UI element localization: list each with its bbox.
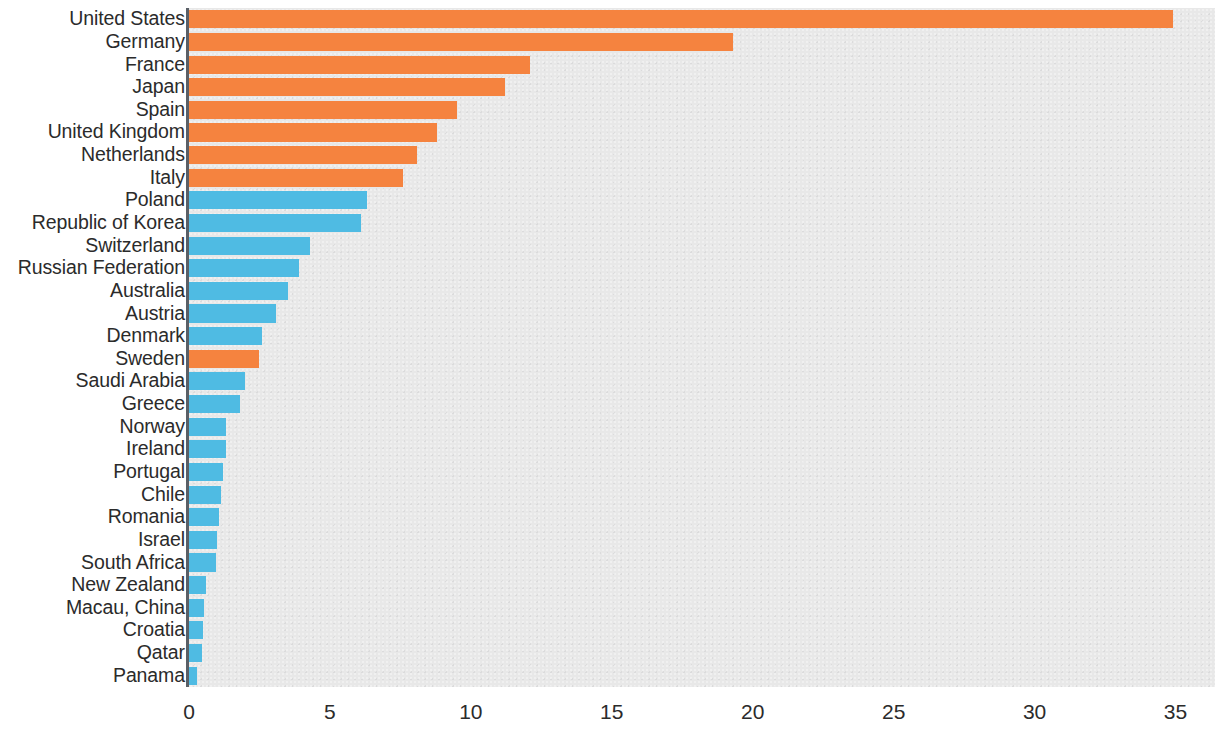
bar (189, 237, 310, 255)
x-axis-tick-label: 25 (882, 701, 905, 722)
bar-row: United States (0, 8, 1215, 31)
bar-row: Germany (0, 31, 1215, 54)
category-label: Romania (108, 507, 185, 527)
bar (189, 621, 203, 639)
category-label: Netherlands (81, 145, 185, 165)
category-label: Spain (136, 100, 185, 120)
bar (189, 304, 276, 322)
bar (189, 553, 216, 571)
bar-row: Russian Federation (0, 257, 1215, 280)
x-axis-tick-label: 10 (459, 701, 482, 722)
bar (189, 531, 217, 549)
bar-row: Qatar (0, 642, 1215, 665)
category-label: United States (69, 10, 185, 30)
category-label: France (125, 55, 185, 75)
bar-row: Portugal (0, 461, 1215, 484)
bar-row: Australia (0, 280, 1215, 303)
bar (189, 101, 457, 119)
category-label: Australia (110, 281, 185, 301)
category-label: Macau, China (66, 598, 185, 618)
bar (189, 599, 204, 617)
category-label: Russian Federation (18, 259, 185, 279)
category-label: Norway (120, 417, 186, 437)
bar-row: Chile (0, 483, 1215, 506)
bar (189, 440, 226, 458)
category-label: New Zealand (71, 575, 185, 595)
category-label: South Africa (81, 553, 185, 573)
bar-row: Panama (0, 664, 1215, 687)
bar (189, 214, 361, 232)
bar (189, 576, 206, 594)
bar-row: Croatia (0, 619, 1215, 642)
bar (189, 327, 262, 345)
bar-row: Denmark (0, 325, 1215, 348)
category-label: Denmark (107, 326, 185, 346)
bar-row: Poland (0, 189, 1215, 212)
x-axis: 05101520253035 (0, 687, 1215, 732)
x-axis-tick-label: 0 (183, 701, 195, 722)
bar-row: Netherlands (0, 144, 1215, 167)
bar-row: New Zealand (0, 574, 1215, 597)
bar (189, 667, 197, 685)
bar (189, 146, 417, 164)
bar-row: Switzerland (0, 234, 1215, 257)
bar (189, 350, 259, 368)
category-label: Greece (122, 394, 185, 414)
x-axis-tick-label: 15 (600, 701, 623, 722)
category-label: Italy (150, 168, 185, 188)
bar-row: Romania (0, 506, 1215, 529)
bar (189, 395, 240, 413)
category-label: Austria (125, 304, 185, 324)
bar (189, 463, 223, 481)
bar (189, 508, 219, 526)
bar (189, 486, 221, 504)
bar-row: Italy (0, 166, 1215, 189)
bar (189, 33, 733, 51)
bar-row: France (0, 53, 1215, 76)
bar-row: Norway (0, 415, 1215, 438)
bar-row: Saudi Arabia (0, 370, 1215, 393)
category-label: Qatar (137, 643, 185, 663)
bar-row: Japan (0, 76, 1215, 99)
category-label: Panama (113, 666, 185, 686)
bar (189, 10, 1173, 28)
bar-row: Israel (0, 529, 1215, 552)
category-label: Saudi Arabia (76, 372, 185, 392)
bar (189, 644, 202, 662)
bar-row: United Kingdom (0, 121, 1215, 144)
bar (189, 169, 403, 187)
x-axis-tick-label: 35 (1164, 701, 1187, 722)
bar-row: Macau, China (0, 596, 1215, 619)
category-label: Ireland (126, 440, 185, 460)
category-label: United Kingdom (48, 123, 185, 143)
bar (189, 372, 245, 390)
bar-row: Greece (0, 393, 1215, 416)
x-axis-tick-label: 5 (324, 701, 336, 722)
bar (189, 56, 530, 74)
bar-row: Austria (0, 302, 1215, 325)
bar-rows: United StatesGermanyFranceJapanSpainUnit… (0, 8, 1215, 687)
x-axis-tick-label: 20 (741, 701, 764, 722)
bar (189, 123, 437, 141)
category-label: Poland (125, 191, 185, 211)
category-label: Chile (141, 485, 185, 505)
category-label: Croatia (123, 621, 185, 641)
category-label: Sweden (115, 349, 185, 369)
bar (189, 191, 367, 209)
bar (189, 259, 299, 277)
category-label: Japan (132, 77, 185, 97)
category-label: Republic of Korea (32, 213, 185, 233)
category-label: Switzerland (85, 236, 185, 256)
category-label: Israel (138, 530, 185, 550)
bar-row: Spain (0, 99, 1215, 122)
bar (189, 78, 505, 96)
bar-chart: United StatesGermanyFranceJapanSpainUnit… (0, 0, 1215, 732)
category-label: Portugal (113, 462, 185, 482)
bar (189, 282, 288, 300)
bar-row: South Africa (0, 551, 1215, 574)
bar-row: Republic of Korea (0, 212, 1215, 235)
x-axis-tick-label: 30 (1023, 701, 1046, 722)
category-label: Germany (106, 32, 186, 52)
bar-row: Sweden (0, 348, 1215, 371)
bar-row: Ireland (0, 438, 1215, 461)
